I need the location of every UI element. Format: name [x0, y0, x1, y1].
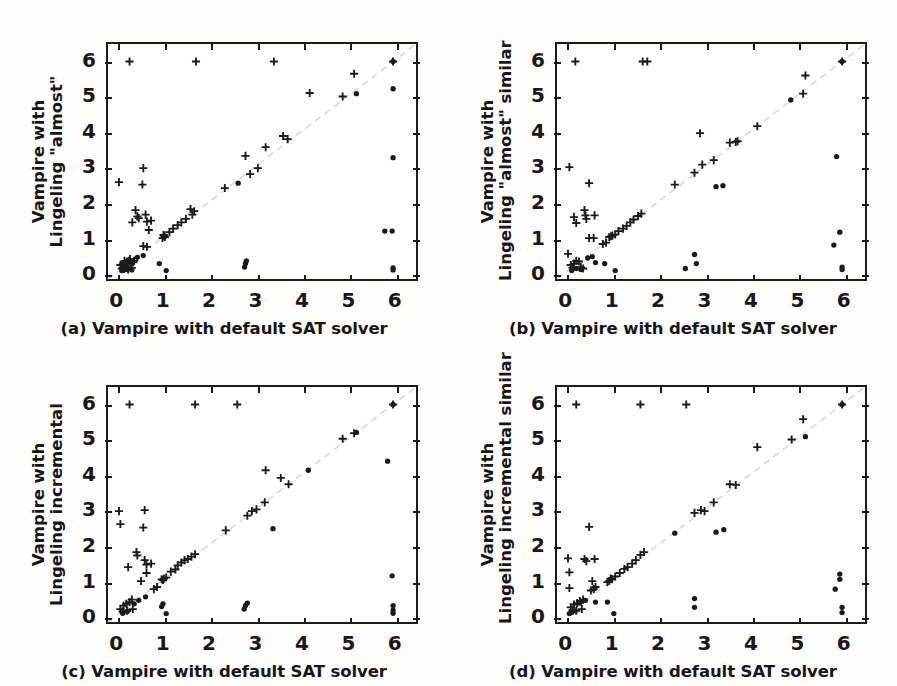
data-point-plus	[191, 400, 199, 408]
x-tick-a-4	[304, 275, 306, 281]
y-tick-right-a-5	[413, 97, 420, 99]
x-axis-label-b: (b) Vampire with default SAT solver	[449, 319, 897, 338]
y-axis-label-line-a-0: Vampire with	[30, 42, 48, 281]
data-point-plus	[125, 57, 133, 65]
y-tick-right-c-5	[413, 440, 420, 442]
x-tick-b-4	[753, 275, 755, 281]
y-tick-right-b-3	[862, 168, 869, 170]
y-axis-label-line-a-1: Lingeling "almost"	[48, 42, 66, 281]
data-point-dot	[593, 599, 598, 604]
x-tick-top-a-5	[350, 43, 352, 50]
y-tick-b-5	[554, 97, 561, 99]
plot-area-d	[555, 385, 867, 624]
x-tick-top-c-0	[118, 386, 120, 393]
data-point-dot	[839, 610, 844, 615]
data-point-dot	[611, 611, 616, 616]
data-point-plus	[799, 415, 807, 423]
data-point-dot	[602, 261, 607, 266]
y-tick-b-6	[554, 62, 561, 64]
y-tick-d-1	[554, 583, 561, 585]
data-point-plus	[262, 143, 270, 151]
data-point-dot	[157, 261, 162, 266]
data-point-dot	[605, 599, 610, 604]
x-tick-label-c-2: 2	[202, 633, 216, 653]
x-tick-top-a-3	[258, 43, 260, 50]
x-tick-c-1	[165, 618, 167, 624]
data-point-dot	[567, 611, 572, 616]
data-point-plus	[241, 152, 249, 160]
x-tick-top-b-2	[660, 43, 662, 50]
y-axis-label-line-c-1: Lingeling incremental	[48, 385, 66, 624]
data-point-dot	[833, 586, 838, 591]
data-point-plus	[591, 211, 599, 219]
x-axis-label-d: (d) Vampire with default SAT solver	[449, 662, 897, 681]
y-tick-c-2	[105, 547, 112, 549]
y-tick-right-d-4	[862, 476, 869, 478]
data-point-plus	[142, 561, 150, 569]
y-tick-right-a-0	[413, 275, 420, 277]
x-tick-label-d-4: 4	[744, 633, 758, 653]
data-point-plus	[799, 90, 807, 98]
data-point-dot	[242, 264, 247, 269]
y-tick-c-0	[105, 618, 112, 620]
data-point-plus	[139, 164, 147, 172]
data-point-dot	[569, 268, 574, 273]
y-tick-label-a-4: 4	[70, 121, 96, 141]
data-point-plus	[565, 163, 573, 171]
data-point-plus	[591, 555, 599, 563]
y-tick-right-b-2	[862, 204, 869, 206]
y-tick-right-c-1	[413, 583, 420, 585]
x-tick-label-c-1: 1	[156, 633, 170, 653]
scatter-canvas-b	[557, 44, 865, 279]
data-point-dot	[390, 228, 395, 233]
x-tick-top-b-3	[707, 43, 709, 50]
y-tick-label-c-6: 6	[70, 393, 96, 413]
y-tick-a-3	[105, 168, 112, 170]
data-point-plus	[671, 181, 679, 189]
y-tick-right-a-6	[413, 62, 420, 64]
series-plus-d	[564, 400, 846, 614]
x-tick-top-c-2	[211, 386, 213, 393]
scatter-canvas-d	[557, 387, 865, 622]
y-tick-label-d-3: 3	[519, 499, 545, 519]
x-tick-label-b-1: 1	[605, 290, 619, 310]
data-point-dot	[245, 600, 250, 605]
data-point-plus	[696, 129, 704, 137]
plot-area-b	[555, 42, 867, 281]
x-tick-top-b-4	[753, 43, 755, 50]
data-point-dot	[354, 430, 359, 435]
y-tick-label-d-6: 6	[519, 393, 545, 413]
x-tick-label-b-6: 6	[837, 290, 851, 310]
y-tick-right-b-4	[862, 133, 869, 135]
y-tick-d-6	[554, 405, 561, 407]
data-point-plus	[339, 92, 347, 100]
y-tick-right-c-3	[413, 511, 420, 513]
data-point-plus	[585, 523, 593, 531]
x-tick-top-a-0	[118, 43, 120, 50]
data-point-dot	[692, 252, 697, 257]
data-point-plus	[125, 400, 133, 408]
x-tick-d-1	[614, 618, 616, 624]
data-point-dot	[241, 606, 246, 611]
x-tick-d-3	[707, 618, 709, 624]
data-point-plus	[590, 234, 598, 242]
y-tick-label-c-4: 4	[70, 464, 96, 484]
plot-area-a	[106, 42, 418, 281]
y-tick-label-d-5: 5	[519, 428, 545, 448]
y-tick-right-d-6	[862, 405, 869, 407]
x-tick-top-b-0	[567, 43, 569, 50]
data-point-plus	[145, 226, 153, 234]
y-tick-b-4	[554, 133, 561, 135]
data-point-dot	[164, 268, 169, 273]
y-tick-a-4	[105, 133, 112, 135]
x-tick-top-c-3	[258, 386, 260, 393]
x-tick-label-d-3: 3	[698, 633, 712, 653]
data-point-dot	[135, 255, 140, 260]
y-tick-b-2	[554, 204, 561, 206]
data-point-dot	[382, 228, 387, 233]
x-tick-top-d-1	[614, 386, 616, 393]
y-tick-label-c-0: 0	[70, 606, 96, 626]
x-tick-label-d-0: 0	[558, 633, 572, 653]
x-tick-d-5	[799, 618, 801, 624]
data-point-dot	[120, 611, 125, 616]
